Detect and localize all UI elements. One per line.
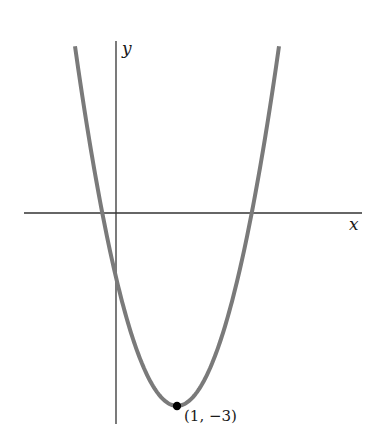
vertex-point <box>173 402 181 410</box>
chart-canvas: y x (1, −3) <box>0 0 380 437</box>
x-axis-label: x <box>349 214 359 234</box>
y-axis-label: y <box>121 38 132 58</box>
vertex-label: (1, −3) <box>184 407 237 425</box>
parabola-curve <box>75 46 279 406</box>
